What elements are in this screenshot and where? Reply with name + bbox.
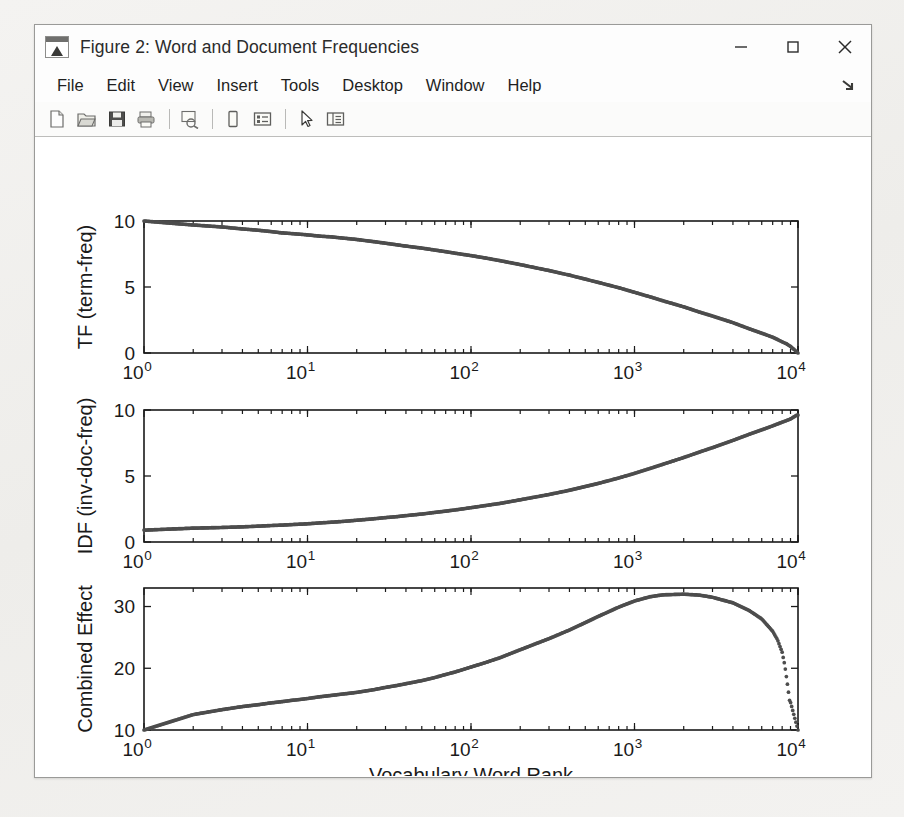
print-preview-icon[interactable]	[176, 106, 203, 132]
svg-text:10: 10	[776, 739, 797, 760]
x-tick-label: 104	[776, 548, 806, 572]
matlab-figure-icon	[45, 36, 69, 58]
svg-text:2: 2	[471, 548, 479, 563]
x-tick-label: 100	[122, 736, 151, 760]
x-tick-label: 102	[449, 359, 478, 383]
toolbar	[35, 102, 871, 137]
svg-text:10: 10	[286, 739, 307, 760]
minimize-button[interactable]	[715, 25, 767, 69]
menu-item-help[interactable]: Help	[498, 74, 552, 97]
svg-text:1: 1	[308, 548, 316, 563]
svg-text:10: 10	[286, 551, 307, 572]
svg-text:10: 10	[613, 551, 634, 572]
svg-text:0: 0	[144, 359, 152, 374]
x-tick-label: 103	[613, 359, 642, 383]
idf-subplot: 0510IDF (inv-doc-freq)100101102103104	[74, 398, 806, 572]
tf-subplot: 0510TF (term-freq)100101102103104	[74, 211, 806, 384]
title-bar: Figure 2: Word and Document Frequencies	[35, 25, 871, 69]
x-tick-label: 101	[286, 736, 315, 760]
x-tick-label: 102	[449, 548, 478, 572]
y-tick-label: 5	[124, 277, 135, 298]
x-tick-label: 104	[776, 359, 806, 383]
y-tick-label: 30	[114, 596, 135, 617]
figure-window: Figure 2: Word and Document Frequencies	[34, 24, 872, 778]
y-tick-label: 5	[124, 466, 135, 487]
figure-canvas: 0510TF (term-freq)1001011021031040510IDF…	[35, 137, 871, 777]
menu-item-edit[interactable]: Edit	[97, 74, 145, 97]
close-button[interactable]	[819, 25, 871, 69]
x-tick-label: 101	[286, 548, 315, 572]
svg-text:2: 2	[471, 736, 479, 751]
svg-text:3: 3	[635, 548, 643, 563]
open-file-icon[interactable]	[73, 106, 100, 132]
y-tick-label: 0	[124, 532, 135, 553]
y-axis-label: TF (term-freq)	[74, 225, 96, 349]
svg-text:1: 1	[308, 359, 316, 374]
svg-text:10: 10	[286, 362, 307, 383]
y-tick-label: 0	[124, 343, 135, 364]
menu-item-file[interactable]: File	[47, 74, 94, 97]
y-tick-label: 10	[114, 400, 135, 421]
svg-text:4: 4	[798, 548, 806, 563]
window-controls	[715, 25, 871, 69]
data-markers	[142, 413, 800, 532]
y-axis-label: IDF (inv-doc-freq)	[74, 398, 96, 555]
x-tick-label: 103	[613, 548, 642, 572]
svg-text:10: 10	[613, 362, 634, 383]
svg-text:3: 3	[635, 736, 643, 751]
menu-item-tools[interactable]: Tools	[271, 74, 330, 97]
svg-text:4: 4	[798, 359, 806, 374]
data-markers	[142, 592, 800, 732]
edit-plot-arrow-icon[interactable]	[292, 106, 319, 132]
svg-text:10: 10	[122, 551, 143, 572]
x-tick-label: 101	[286, 359, 315, 383]
new-figure-icon[interactable]	[43, 106, 70, 132]
show-plot-tools-icon[interactable]	[322, 106, 349, 132]
x-tick-label: 104	[776, 736, 806, 760]
x-tick-label: 100	[122, 548, 151, 572]
svg-text:0: 0	[144, 736, 152, 751]
toolbar-separator	[169, 109, 170, 129]
svg-text:10: 10	[122, 739, 143, 760]
svg-text:10: 10	[776, 362, 797, 383]
x-tick-label: 103	[613, 736, 642, 760]
subplots-svg: 0510TF (term-freq)1001011021031040510IDF…	[35, 137, 871, 776]
menu-bar: File Edit View Insert Tools Desktop Wind…	[35, 69, 871, 102]
insert-colorbar-icon[interactable]	[219, 106, 246, 132]
toolbar-separator	[285, 109, 286, 129]
dock-arrow-icon[interactable]	[841, 78, 857, 94]
x-axis-label: Vocabulary Word Rank	[369, 764, 574, 776]
svg-text:0: 0	[144, 548, 152, 563]
y-axis-label: Combined Effect	[74, 585, 96, 733]
svg-text:10: 10	[449, 362, 470, 383]
window-title: Figure 2: Word and Document Frequencies	[80, 37, 419, 58]
svg-text:10: 10	[449, 551, 470, 572]
svg-text:10: 10	[776, 551, 797, 572]
y-tick-label: 10	[114, 720, 135, 741]
toolbar-separator	[212, 109, 213, 129]
save-figure-icon[interactable]	[103, 106, 130, 132]
svg-text:3: 3	[635, 359, 643, 374]
combined-effect-subplot: 102030Combined Effect100101102103104Voca…	[74, 585, 806, 776]
svg-text:10: 10	[122, 362, 143, 383]
maximize-button[interactable]	[767, 25, 819, 69]
x-tick-label: 100	[122, 359, 151, 383]
menu-item-desktop[interactable]: Desktop	[332, 74, 413, 97]
insert-legend-icon[interactable]	[249, 106, 276, 132]
svg-text:10: 10	[449, 739, 470, 760]
menu-item-insert[interactable]: Insert	[207, 74, 268, 97]
menu-item-view[interactable]: View	[148, 74, 203, 97]
x-tick-label: 102	[449, 736, 478, 760]
svg-text:1: 1	[308, 736, 316, 751]
svg-text:2: 2	[471, 359, 479, 374]
menu-item-window[interactable]: Window	[416, 74, 495, 97]
y-tick-label: 10	[114, 211, 135, 232]
data-markers	[142, 219, 800, 355]
print-figure-icon[interactable]	[133, 106, 160, 132]
svg-text:10: 10	[613, 739, 634, 760]
y-tick-label: 20	[114, 658, 135, 679]
svg-text:4: 4	[798, 736, 806, 751]
